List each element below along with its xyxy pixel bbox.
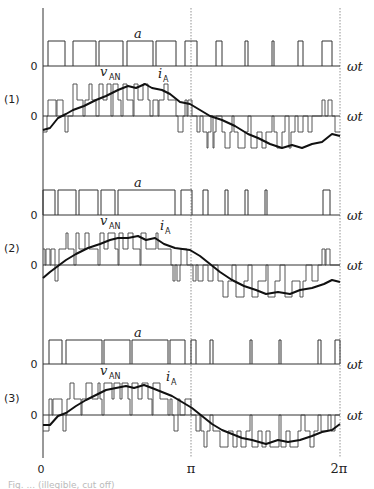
switch-zero-label: 0: [31, 358, 38, 371]
panel-number-label: (3): [4, 392, 20, 405]
switch-label-a: a: [134, 26, 142, 41]
omega-t-label: ωt: [347, 357, 364, 372]
voltage-label-subscript: AN: [109, 73, 120, 82]
voltage-zero-label: 0: [31, 409, 38, 422]
voltage-label-subscript: AN: [109, 372, 120, 381]
voltage-zero-label: 0: [31, 259, 38, 272]
panel-number-label: (2): [4, 242, 20, 255]
omega-t-label: ωt: [347, 109, 364, 124]
switch-zero-label: 0: [31, 209, 38, 222]
panel-2: 00ωtωta(2)vANiA: [4, 175, 364, 297]
current-label-subscript: A: [171, 378, 177, 387]
caption-partial: Fig. ... (illegible, cut off): [8, 480, 368, 489]
current-label-subscript: A: [163, 75, 169, 84]
omega-t-label: ωt: [347, 208, 364, 223]
panel-1: 00ωtωta(1)vANiA: [4, 26, 364, 148]
switch-function-a: [43, 190, 330, 215]
panel-3: 00ωtωta(3)vANiA: [4, 325, 364, 447]
voltage-label-vAN: v: [100, 213, 108, 228]
tick-label-0: 0: [38, 463, 45, 476]
switch-function-a: [49, 340, 340, 364]
voltage-zero-label: 0: [31, 110, 38, 123]
current-label-iA: i: [160, 218, 164, 233]
x-tick-labels: 0π2π: [38, 461, 348, 476]
switch-label-a: a: [134, 175, 142, 190]
panel-number-label: (1): [4, 93, 20, 106]
current-label-iA: i: [166, 369, 170, 384]
omega-t-label: ωt: [347, 258, 364, 273]
tick-label-2pi: 2π: [331, 461, 348, 476]
voltage-label-vAN: v: [100, 363, 108, 378]
voltage-label-subscript: AN: [109, 222, 120, 231]
switch-function-a: [48, 41, 332, 66]
omega-t-label: ωt: [347, 59, 364, 74]
current-label-iA: i: [158, 66, 162, 81]
omega-t-label: ωt: [347, 408, 364, 423]
voltage-label-vAN: v: [100, 64, 108, 79]
panels-group: 00ωtωta(1)vANiA00ωtωta(2)vANiA00ωtωta(3)…: [4, 26, 364, 447]
tick-label-pi: π: [187, 461, 196, 476]
pwm-waveform-figure: 00ωtωta(1)vANiA00ωtωta(2)vANiA00ωtωta(3)…: [0, 0, 374, 489]
switch-zero-label: 0: [31, 60, 38, 73]
current-label-subscript: A: [165, 227, 171, 236]
switch-label-a: a: [134, 325, 142, 340]
